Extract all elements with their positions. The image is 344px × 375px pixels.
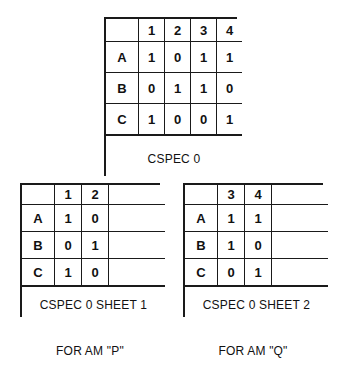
cell-a-4: 1 (217, 42, 243, 73)
table-row: B 0 1 1 0 (106, 73, 242, 104)
table-caption-row: CSPEC 0 SHEET 1 (22, 286, 165, 323)
row-label-b: B (22, 232, 55, 259)
column-header-blank (109, 185, 166, 205)
column-header-2: 2 (165, 19, 191, 42)
cspec0-matrix: 1 2 3 4 A 1 0 1 1 B 0 1 1 0 C 1 (104, 17, 237, 176)
row-label-a: A (106, 42, 139, 73)
cspec0-table: 1 2 3 4 A 1 0 1 1 B 0 1 1 0 C 1 (106, 19, 242, 181)
cell-b-blank (272, 232, 329, 259)
table-row: A 1 0 (22, 205, 165, 232)
row-label-a: A (185, 205, 218, 232)
table-row: B 0 1 (22, 232, 165, 259)
row-label-b: B (106, 73, 139, 104)
cell-b-4: 0 (217, 73, 243, 104)
cell-a-4: 1 (245, 205, 272, 232)
cell-b-blank (109, 232, 166, 259)
table-row: A 1 1 (185, 205, 328, 232)
cell-c-1: 1 (55, 259, 82, 287)
sheet2-sub-caption: FOR AM "Q" (183, 344, 323, 358)
cell-c-4: 1 (217, 104, 243, 136)
column-header-3: 3 (218, 185, 245, 205)
cell-c-2: 0 (82, 259, 109, 287)
cell-c-3: 0 (218, 259, 245, 287)
cell-c-blank (272, 259, 329, 287)
cell-b-1: 0 (55, 232, 82, 259)
table-row: C 1 0 (22, 259, 165, 287)
column-header-4: 4 (245, 185, 272, 205)
table-header-row: 1 2 3 4 (106, 19, 242, 42)
row-label-b: B (185, 232, 218, 259)
table-header-row: 3 4 (185, 185, 328, 205)
corner-cell (185, 185, 218, 205)
sheet1-caption: CSPEC 0 SHEET 1 (22, 286, 165, 323)
sheet1-sub-caption: FOR AM "P" (20, 344, 160, 358)
corner-cell (22, 185, 55, 205)
cell-a-blank (272, 205, 329, 232)
cell-a-1: 1 (139, 42, 165, 73)
column-header-4: 4 (217, 19, 243, 42)
table-row: B 1 0 (185, 232, 328, 259)
cell-b-3: 1 (218, 232, 245, 259)
table-caption-row: CSPEC 0 SHEET 2 (185, 286, 328, 323)
table-caption-row: CSPEC 0 (106, 135, 242, 181)
cspec0-sheet1-matrix: 1 2 A 1 0 B 0 1 C 1 0 (20, 183, 160, 317)
table-row: C 1 0 0 1 (106, 104, 242, 136)
row-label-c: C (106, 104, 139, 136)
cell-b-1: 0 (139, 73, 165, 104)
cspec-decomposition-diagram: 1 2 3 4 A 1 0 1 1 B 0 1 1 0 C 1 (0, 0, 344, 375)
cell-c-1: 1 (139, 104, 165, 136)
cell-c-3: 0 (191, 104, 217, 136)
cell-b-2: 1 (165, 73, 191, 104)
sheet2-table: 3 4 A 1 1 B 1 0 C 0 1 (185, 185, 328, 323)
column-header-2: 2 (82, 185, 109, 205)
column-header-1: 1 (139, 19, 165, 42)
table-row: A 1 0 1 1 (106, 42, 242, 73)
row-label-c: C (185, 259, 218, 287)
cell-c-2: 0 (165, 104, 191, 136)
column-header-1: 1 (55, 185, 82, 205)
cell-b-4: 0 (245, 232, 272, 259)
column-header-blank (272, 185, 329, 205)
sheet1-table: 1 2 A 1 0 B 0 1 C 1 0 (22, 185, 165, 323)
row-label-a: A (22, 205, 55, 232)
cell-a-3: 1 (191, 42, 217, 73)
cell-a-2: 0 (82, 205, 109, 232)
cspec0-sheet2-matrix: 3 4 A 1 1 B 1 0 C 0 1 (183, 183, 323, 317)
corner-cell (106, 19, 139, 42)
table-header-row: 1 2 (22, 185, 165, 205)
cell-a-2: 0 (165, 42, 191, 73)
cell-b-2: 1 (82, 232, 109, 259)
column-header-3: 3 (191, 19, 217, 42)
cell-b-3: 1 (191, 73, 217, 104)
cell-a-3: 1 (218, 205, 245, 232)
sheet2-caption: CSPEC 0 SHEET 2 (185, 286, 328, 323)
table-row: C 0 1 (185, 259, 328, 287)
row-label-c: C (22, 259, 55, 287)
cspec0-caption: CSPEC 0 (106, 135, 242, 181)
cell-c-blank (109, 259, 166, 287)
cell-c-4: 1 (245, 259, 272, 287)
cell-a-1: 1 (55, 205, 82, 232)
cell-a-blank (109, 205, 166, 232)
